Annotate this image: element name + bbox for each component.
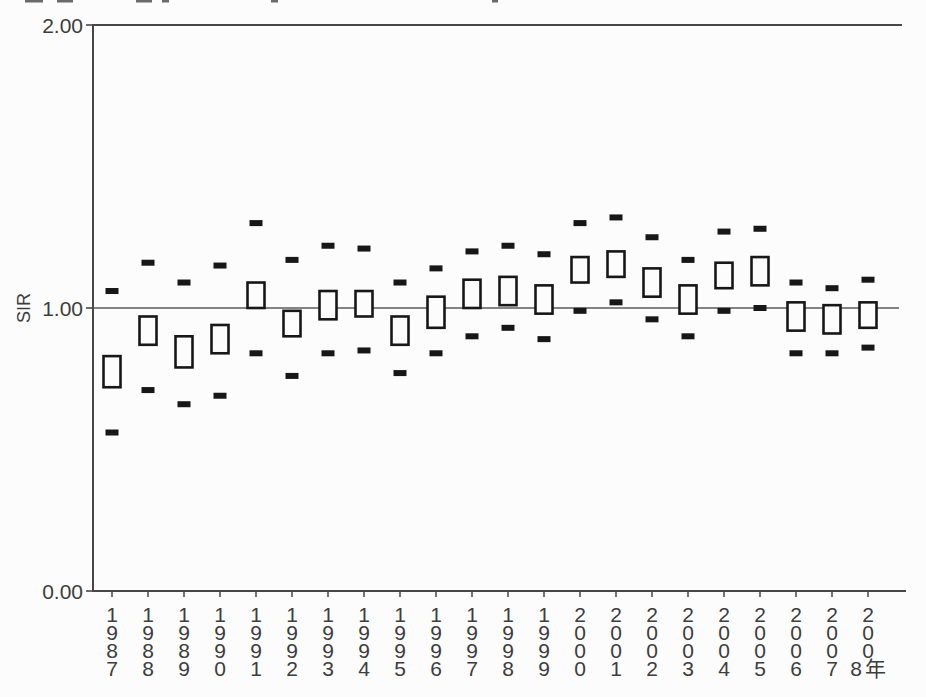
year-marks-2002 — [644, 234, 661, 322]
x-axis-label-1991: 1991 — [250, 603, 262, 680]
estimate-box — [392, 316, 409, 344]
x-axis-label-1992: 1992 — [286, 603, 298, 680]
lower-limit-dash — [214, 393, 227, 399]
lower-limit-dash — [250, 350, 263, 356]
x-axis-label-2000: 2000 — [574, 603, 586, 680]
year-marks-2004 — [716, 229, 733, 314]
x-axis-label-1990: 1990 — [214, 603, 226, 680]
upper-limit-dash — [574, 220, 587, 226]
estimate-box — [536, 285, 553, 313]
scan-artifact-segment — [271, 0, 278, 3]
lower-limit-dash — [862, 345, 875, 351]
x-axis-label-1999: 1999 — [538, 603, 550, 680]
x-axis-label-1996: 1996 — [430, 603, 442, 680]
x-axis-label-2005: 2005 — [754, 603, 766, 680]
lower-limit-dash — [790, 350, 803, 356]
upper-limit-dash — [826, 285, 839, 291]
lower-limit-dash — [826, 350, 839, 356]
upper-limit-dash — [106, 288, 119, 294]
lower-limit-dash — [178, 401, 191, 407]
estimate-box — [644, 268, 661, 296]
x-axis-label-1989: 1989 — [178, 603, 190, 680]
upper-limit-dash — [142, 260, 155, 266]
x-axis-label-2008: 2008年 — [850, 603, 886, 680]
lower-limit-dash — [502, 325, 515, 331]
lower-limit-dash — [682, 333, 695, 339]
upper-limit-dash — [790, 280, 803, 286]
x-axis-label-2004: 2004 — [718, 603, 730, 680]
year-marks-1995 — [392, 280, 409, 377]
x-axis-label-2003: 2003 — [682, 603, 694, 680]
estimate-box — [176, 336, 193, 367]
upper-limit-dash — [214, 263, 227, 269]
x-axis-label-1995: 1995 — [394, 603, 406, 680]
year-marks-2003 — [680, 257, 697, 339]
year-marks-1990 — [212, 263, 229, 399]
upper-limit-dash — [358, 246, 371, 252]
estimate-box — [428, 297, 445, 328]
year-unit-suffix: 年 — [865, 657, 886, 680]
estimate-box — [284, 311, 301, 336]
lower-limit-dash — [358, 347, 371, 353]
estimate-box — [464, 280, 481, 308]
upper-limit-dash — [862, 277, 875, 283]
x-axis-label-1998: 1998 — [502, 603, 514, 680]
y-tick-label: 1.00 — [42, 297, 83, 320]
year-marks-2007 — [824, 285, 841, 356]
year-marks-2008 — [860, 277, 877, 351]
year-marks-1999 — [536, 251, 553, 342]
scanned-chart-page: 0.001.002.00SIR1987198819891990199119921… — [0, 0, 926, 697]
x-axis-label-1997: 1997 — [466, 603, 478, 680]
scan-artifact-segment — [492, 0, 498, 3]
lower-limit-dash — [754, 305, 767, 311]
y-axis-title: SIR — [14, 293, 34, 323]
year-marks-1987 — [104, 288, 121, 436]
x-axis-label-1993: 1993 — [322, 603, 334, 680]
year-marks-2001 — [608, 214, 625, 305]
y-tick-label: 2.00 — [42, 14, 83, 37]
estimate-box — [716, 263, 733, 288]
scan-artifact-segment — [136, 0, 152, 3]
lower-limit-dash — [430, 350, 443, 356]
lower-limit-dash — [106, 430, 119, 436]
year-marks-1998 — [500, 243, 517, 331]
x-axis-label-2007: 2007 — [826, 603, 838, 680]
lower-limit-dash — [610, 299, 623, 305]
year-marks-1993 — [320, 243, 337, 357]
upper-limit-dash — [502, 243, 515, 249]
estimate-box — [320, 291, 337, 319]
year-marks-1991 — [248, 220, 265, 356]
upper-limit-dash — [286, 257, 299, 263]
upper-limit-dash — [538, 251, 551, 257]
x-axis-label-2006: 2006 — [790, 603, 802, 680]
lower-limit-dash — [718, 308, 731, 314]
scan-artifact-segment — [57, 0, 73, 3]
estimate-box — [860, 302, 877, 327]
estimate-box — [104, 356, 121, 387]
upper-limit-dash — [178, 280, 191, 286]
year-marks-1988 — [140, 260, 157, 393]
year-marks-1996 — [428, 265, 445, 356]
x-axis-label-1994: 1994 — [358, 603, 370, 680]
x-axis-label-1988: 1988 — [142, 603, 154, 680]
lower-limit-dash — [286, 373, 299, 379]
year-marks-1994 — [356, 246, 373, 354]
year-marks-2005 — [752, 226, 769, 311]
estimate-box — [788, 302, 805, 330]
upper-limit-dash — [466, 248, 479, 254]
upper-limit-dash — [718, 229, 731, 235]
x-axis-label-2002: 2002 — [646, 603, 658, 680]
estimate-box — [608, 251, 625, 276]
scan-artifact-segment — [25, 0, 43, 3]
lower-limit-dash — [322, 350, 335, 356]
lower-limit-dash — [466, 333, 479, 339]
year-marks-2000 — [572, 220, 589, 314]
year-marks-1992 — [284, 257, 301, 379]
upper-limit-dash — [322, 243, 335, 249]
scan-artifact-segment — [162, 0, 169, 3]
estimate-box — [356, 291, 373, 316]
lower-limit-dash — [646, 316, 659, 322]
year-marks-1997 — [464, 248, 481, 339]
estimate-box — [248, 283, 265, 308]
upper-limit-dash — [430, 265, 443, 271]
